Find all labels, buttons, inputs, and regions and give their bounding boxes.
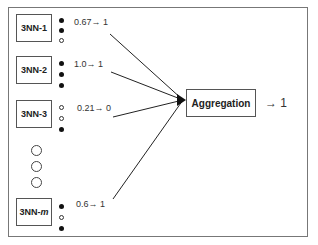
vote-dot-filled xyxy=(59,83,64,88)
vote-dot-filled xyxy=(59,72,64,77)
classifier-label: 3NN-1 xyxy=(21,23,47,33)
score-label: 0.6→ 1 xyxy=(76,199,105,209)
ellipsis-circle-icon xyxy=(31,145,42,156)
classifier-box-m: 3NN-m xyxy=(16,198,52,226)
classifier-label: 3NN-m xyxy=(19,207,48,217)
vote-dot-filled xyxy=(59,28,64,33)
score-label: 1.0→ 1 xyxy=(74,59,103,69)
aggregation-label: Aggregation xyxy=(192,98,251,109)
vote-dot-open xyxy=(59,38,64,43)
classifier-box-2: 3NN-2 xyxy=(16,56,52,84)
vote-dot-filled xyxy=(59,127,64,132)
arrowhead-icon xyxy=(177,94,186,106)
classifier-label: 3NN-2 xyxy=(21,65,47,75)
score-label: 0.21→ 0 xyxy=(77,103,111,113)
classifier-box-1: 3NN-1 xyxy=(16,14,52,42)
vote-dot-open xyxy=(59,116,64,121)
classifier-box-3: 3NN-3 xyxy=(16,100,52,128)
classifier-label-prefix: 3NN- xyxy=(19,207,40,217)
vote-dot-filled xyxy=(59,204,64,209)
aggregation-box: Aggregation xyxy=(186,89,256,117)
vote-dot-open xyxy=(59,215,64,220)
ellipsis-circle-icon xyxy=(31,161,42,172)
vote-dot-filled xyxy=(59,226,64,231)
vote-dot-open xyxy=(59,105,64,110)
vote-dot-filled xyxy=(59,18,64,23)
score-label: 0.67→ 1 xyxy=(74,17,108,27)
ellipsis-circle-icon xyxy=(31,177,42,188)
vote-dot-filled xyxy=(59,61,64,66)
classifier-label: 3NN-3 xyxy=(21,109,47,119)
aggregation-output: → 1 xyxy=(265,96,287,110)
classifier-label-suffix: m xyxy=(41,207,49,217)
